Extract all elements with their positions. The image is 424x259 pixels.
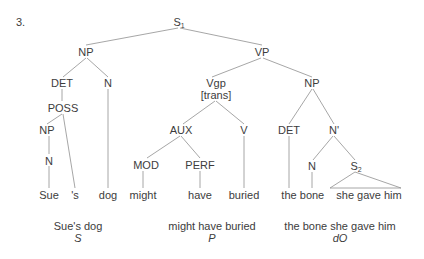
leaf-word: buried (229, 189, 260, 201)
node-subscript: 2 (358, 166, 362, 173)
node-vgp-feature: [trans] (201, 89, 232, 101)
node-subscript: 1 (181, 22, 185, 29)
node-n-object: N (308, 160, 316, 172)
node-mod: MOD (133, 159, 159, 171)
leaf-word: she gave him (336, 189, 401, 201)
node-vgp: Vgp (206, 77, 226, 89)
node-np-object: NP (304, 77, 319, 89)
example-number: 3. (16, 16, 25, 28)
leaf-word: bone (300, 189, 324, 201)
role-direct-object: dO (333, 232, 348, 244)
constituent-direct-object: the bone she gave him (284, 220, 395, 232)
node-vp: VP (255, 46, 270, 58)
leaf-word: dog (99, 189, 117, 201)
node-poss: POSS (48, 102, 79, 114)
role-subject: S (74, 232, 81, 244)
leaf-word: might (130, 189, 157, 201)
leaf-word: have (188, 189, 212, 201)
leaf-word: the (281, 189, 296, 201)
node-perf: PERF (185, 159, 214, 171)
node-n-bar: N' (329, 124, 339, 136)
leaf-word: Sue (39, 189, 59, 201)
node-aux: AUX (170, 124, 193, 136)
node-n-subject: N (104, 77, 112, 89)
leaf-word: 's (71, 189, 79, 201)
node-v: V (240, 124, 247, 136)
role-predicate: P (208, 232, 215, 244)
constituent-subject: Sue's dog (54, 220, 103, 232)
node-det-object: DET (278, 124, 300, 136)
node-np-poss: NP (39, 124, 54, 136)
node-np-subject: NP (78, 46, 93, 58)
node-s2: S2 (350, 160, 361, 176)
constituent-predicate: might have buried (168, 220, 255, 232)
node-n-poss: N (45, 155, 53, 167)
node-s1: S1 (173, 16, 184, 32)
node-det-subject: DET (51, 77, 73, 89)
